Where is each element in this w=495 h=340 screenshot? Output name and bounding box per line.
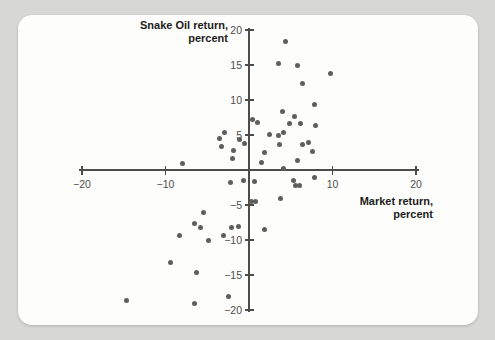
data-point	[312, 102, 317, 107]
data-point	[310, 149, 315, 154]
y-tick	[245, 204, 254, 205]
data-point	[280, 109, 285, 114]
data-point	[252, 179, 257, 184]
y-tick	[245, 239, 254, 240]
data-point	[262, 150, 267, 155]
data-point	[287, 121, 292, 126]
chart-card: Snake Oil return, percent Market return,…	[18, 15, 478, 325]
y-tick	[245, 29, 254, 30]
data-point	[222, 130, 227, 135]
data-point	[295, 158, 300, 163]
data-point	[313, 123, 318, 128]
data-point	[292, 114, 297, 119]
data-point	[276, 61, 281, 66]
y-tick-label: −15	[224, 269, 242, 281]
y-tick-label: −5	[230, 199, 242, 211]
y-axis-line	[248, 28, 249, 312]
data-point	[192, 301, 197, 306]
y-tick-label: −20	[224, 304, 242, 316]
data-point	[276, 133, 281, 138]
data-point	[236, 224, 241, 229]
data-point	[177, 233, 182, 238]
y-tick	[245, 274, 254, 275]
y-tick	[245, 134, 254, 135]
data-point	[201, 210, 206, 215]
data-point	[242, 141, 247, 146]
x-tick-label: 20	[410, 178, 422, 190]
y-axis-title: Snake Oil return, percent	[140, 19, 228, 45]
scatter-plot: Snake Oil return, percent Market return,…	[18, 15, 478, 325]
data-point	[298, 121, 303, 126]
data-point	[300, 142, 305, 147]
data-point	[219, 144, 224, 149]
data-point	[230, 156, 235, 161]
data-point	[228, 180, 233, 185]
data-point	[229, 225, 234, 230]
y-tick-label: −10	[224, 234, 242, 246]
data-point	[281, 166, 286, 171]
data-point	[283, 39, 288, 44]
data-point	[328, 71, 333, 76]
data-point	[180, 161, 185, 166]
data-point	[259, 160, 264, 165]
y-tick	[245, 64, 254, 65]
y-tick-label: 20	[230, 24, 242, 36]
x-tick-label: −10	[157, 178, 175, 190]
y-tick	[245, 99, 254, 100]
data-point	[198, 225, 203, 230]
x-tick	[332, 166, 333, 175]
data-point	[253, 199, 258, 204]
data-point	[306, 140, 311, 145]
x-tick	[165, 166, 166, 175]
data-point	[300, 81, 305, 86]
data-point	[255, 120, 260, 125]
x-axis-title: Market return, percent	[360, 195, 433, 221]
data-point	[267, 132, 272, 137]
x-tick-label: −20	[73, 178, 91, 190]
x-tick	[81, 166, 82, 175]
data-point	[231, 148, 236, 153]
y-tick-label: 15	[230, 59, 242, 71]
data-point	[226, 294, 231, 299]
y-tick	[245, 309, 254, 310]
x-tick-label: 10	[327, 178, 339, 190]
data-point	[297, 183, 302, 188]
data-point	[262, 227, 267, 232]
data-point	[312, 175, 317, 180]
data-point	[168, 260, 173, 265]
data-point	[277, 142, 282, 147]
data-point	[124, 298, 129, 303]
data-point	[281, 130, 286, 135]
data-point	[192, 221, 197, 226]
data-point	[278, 196, 283, 201]
data-point	[295, 63, 300, 68]
x-tick	[415, 166, 416, 175]
data-point	[241, 178, 246, 183]
data-point	[217, 136, 222, 141]
y-tick-label: 10	[230, 94, 242, 106]
data-point	[194, 270, 199, 275]
data-point	[206, 238, 211, 243]
